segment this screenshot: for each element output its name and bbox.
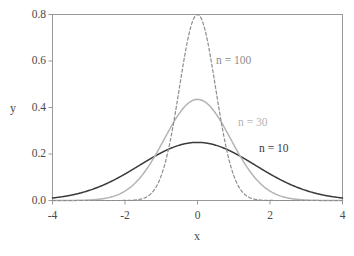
- series-annotation-n30: n = 30: [238, 117, 268, 129]
- y-tick-label: 0.2: [16, 148, 46, 160]
- y-tick-label: 0.0: [16, 195, 46, 207]
- plot-frame: [53, 15, 343, 201]
- curve-n30: [53, 99, 343, 200]
- y-tick-label: 0.4: [16, 102, 46, 114]
- curve-n10: [53, 142, 343, 198]
- y-axis-ticks: [49, 15, 53, 201]
- y-axis-title: y: [10, 102, 16, 114]
- series-annotation-n10: n = 10: [259, 143, 289, 155]
- y-tick-label: 0.8: [16, 9, 46, 21]
- x-tick-label: -2: [105, 210, 145, 222]
- data-curves: [53, 15, 343, 201]
- y-tick-label: 0.6: [16, 55, 46, 67]
- x-tick-label: 0: [178, 210, 218, 222]
- x-tick-label: 2: [250, 210, 290, 222]
- series-annotation-n100: n = 100: [216, 55, 251, 67]
- x-axis-ticks: [53, 201, 343, 205]
- x-tick-label: 4: [323, 210, 354, 222]
- x-axis-title: x: [194, 230, 200, 242]
- x-tick-label: -4: [33, 210, 73, 222]
- chart-container: 0.0 0.2 0.4 0.6 0.8 -4 -2 0 2 4 y x n = …: [0, 0, 354, 256]
- curve-n100: [53, 15, 343, 201]
